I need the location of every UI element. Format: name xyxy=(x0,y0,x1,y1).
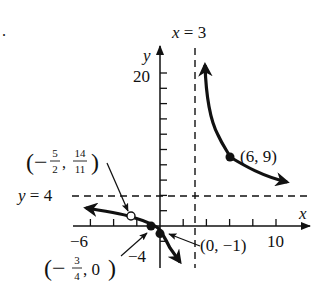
svg-text:4: 4 xyxy=(74,270,80,282)
label-y-intercept: (0, −1) xyxy=(200,236,246,255)
rational-function-graph: . x y 20 xyxy=(0,0,330,301)
y-axis-label: y xyxy=(141,46,151,65)
label-hole: (− 5 2 , 14 11 ) xyxy=(26,147,99,175)
x-tick-label-neg6: −6 xyxy=(70,232,88,251)
point-x-intercept xyxy=(147,222,156,231)
svg-text:11: 11 xyxy=(75,163,86,175)
hole-open-circle xyxy=(127,212,135,220)
x-tick-label-neg4: −4 xyxy=(128,247,147,266)
svg-text:,: , xyxy=(62,154,66,171)
svg-text:5: 5 xyxy=(52,147,58,159)
svg-text:3: 3 xyxy=(74,254,80,266)
y-tick-label-20: 20 xyxy=(133,67,150,86)
vertical-asymptote-label: x = 3 xyxy=(171,23,206,42)
label-point-6-9: (6, 9) xyxy=(240,147,277,166)
horizontal-asymptote-label: y = 4 xyxy=(16,186,53,205)
svg-text:(−: (− xyxy=(26,149,48,175)
x-ticks xyxy=(90,219,276,226)
svg-text:(−: (− xyxy=(44,255,66,281)
svg-text:): ) xyxy=(91,149,99,175)
point-6-9 xyxy=(226,153,235,162)
y-ticks xyxy=(160,73,167,241)
svg-text:): ) xyxy=(108,255,116,281)
svg-text:, 0: , 0 xyxy=(83,260,100,279)
point-y-intercept xyxy=(156,229,165,238)
x-axis-label: x xyxy=(298,204,307,223)
hole-pointer xyxy=(107,163,128,211)
label-x-intercept: (− 3 4 , 0 ) xyxy=(44,254,116,282)
stray-dot: . xyxy=(2,22,6,39)
svg-text:2: 2 xyxy=(52,163,58,175)
svg-text:14: 14 xyxy=(75,147,87,159)
x-tick-label-10: 10 xyxy=(267,232,284,251)
